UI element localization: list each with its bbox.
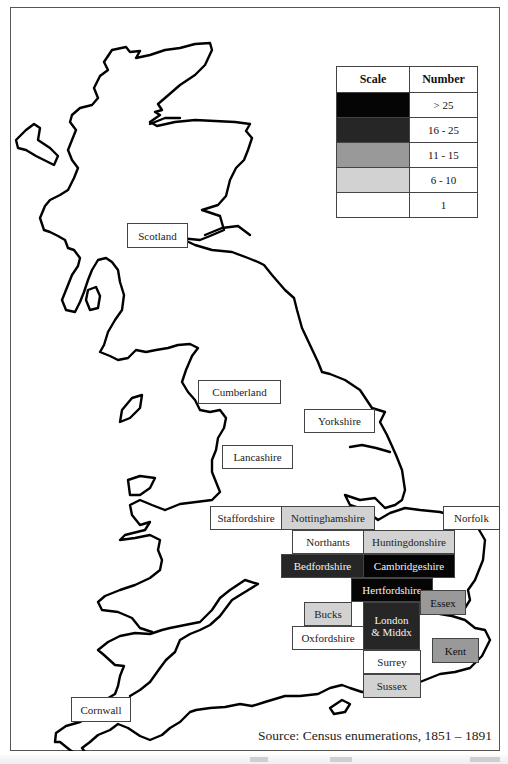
label-lancashire: Lancashire xyxy=(222,445,293,469)
island-isle-of-man xyxy=(120,395,142,422)
island-arran xyxy=(86,287,100,310)
label-bucks: Bucks xyxy=(304,602,352,626)
legend-row: > 25 xyxy=(337,93,478,118)
label-norfolk: Norfolk xyxy=(443,506,500,530)
legend-swatch-gt25 xyxy=(337,93,410,118)
legend-label: 11 - 15 xyxy=(410,143,478,168)
legend-swatch-6-10 xyxy=(337,168,410,193)
label-huntingdonshire: Huntingdonshire xyxy=(363,530,455,554)
label-london-middx: London & Middx xyxy=(363,602,420,650)
label-kent: Kent xyxy=(432,638,479,663)
legend-row: 11 - 15 xyxy=(337,143,478,168)
legend-swatch-1 xyxy=(337,193,410,218)
legend-swatch-16-25 xyxy=(337,118,410,143)
label-london-line2: & Middx xyxy=(371,626,412,638)
label-essex: Essex xyxy=(420,590,466,615)
source-caption: Source: Census enumerations, 1851 – 1891 xyxy=(254,724,498,748)
label-surrey: Surrey xyxy=(363,650,421,674)
label-oxfordshire: Oxfordshire xyxy=(292,626,364,650)
legend-label: 6 - 10 xyxy=(410,168,478,193)
label-cumberland: Cumberland xyxy=(198,380,281,404)
legend-row: 16 - 25 xyxy=(337,118,478,143)
label-cambridgeshire: Cambridgeshire xyxy=(363,554,455,578)
label-yorkshire: Yorkshire xyxy=(304,409,375,433)
label-bedfordshire: Bedfordshire xyxy=(281,554,364,578)
label-nottinghamshire: Nottinghamshire xyxy=(281,506,375,530)
humber xyxy=(350,445,390,452)
legend-header-number: Number xyxy=(410,67,478,93)
legend-swatch-11-15 xyxy=(337,143,410,168)
legend-header-scale: Scale xyxy=(337,67,410,93)
legend-header-row: Scale Number xyxy=(337,67,478,93)
island-skye xyxy=(16,124,58,165)
label-london-line1: London xyxy=(374,614,408,626)
text-fragment xyxy=(330,757,352,762)
label-northants: Northants xyxy=(292,530,364,554)
legend-row: 6 - 10 xyxy=(337,168,478,193)
legend-row: 1 xyxy=(337,193,478,218)
coastline-wales xyxy=(98,500,165,632)
text-fragment xyxy=(250,757,268,762)
label-cornwall: Cornwall xyxy=(71,697,131,722)
label-sussex: Sussex xyxy=(363,674,421,698)
firth-forth xyxy=(205,226,250,235)
island-wight xyxy=(330,700,350,714)
legend-label: 16 - 25 xyxy=(410,118,478,143)
legend-table: Scale Number > 25 16 - 25 11 - 15 6 - 10… xyxy=(336,66,478,218)
label-scotland: Scotland xyxy=(127,223,188,248)
legend-label: > 25 xyxy=(410,93,478,118)
text-fragment xyxy=(470,757,500,762)
island-anglesey xyxy=(128,476,155,495)
label-staffordshire: Staffordshire xyxy=(210,506,282,530)
coastline-scotland-west xyxy=(40,56,226,510)
legend-label: 1 xyxy=(410,193,478,218)
